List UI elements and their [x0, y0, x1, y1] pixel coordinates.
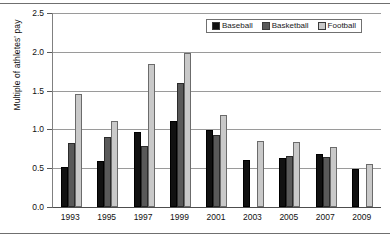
y-axis-tick-label: 0.5: [32, 163, 44, 173]
bar-group: [348, 13, 378, 207]
bar-football-1997: [148, 64, 155, 207]
bar-group: [311, 13, 341, 207]
x-axis-tick-label: 1993: [55, 212, 85, 222]
legend-swatch-basketball: [262, 22, 270, 30]
legend-item-basketball: Basketball: [262, 22, 309, 30]
bar-football-2007: [330, 147, 337, 207]
y-axis-title: Multiple of athletes' pay: [12, 0, 22, 150]
gridline: [53, 207, 381, 208]
bar-group: [56, 13, 86, 207]
x-axis-tick-label: 1997: [128, 212, 158, 222]
bar-football-2001: [220, 115, 227, 207]
bar-group: [93, 13, 123, 207]
bar-football-2003: [257, 141, 264, 207]
y-axis-tick-label: 2.5: [32, 8, 44, 18]
y-axis-tick: [47, 91, 52, 92]
x-axis-tick-label: 2001: [201, 212, 231, 222]
bar-baseball-2003: [243, 160, 250, 207]
bar-football-1995: [111, 121, 118, 207]
bar-football-2009: [366, 164, 373, 207]
bar-baseball-2001: [206, 130, 213, 207]
legend-label: Football: [328, 22, 356, 30]
x-axis-tick-label: 1999: [165, 212, 195, 222]
bar-basketball-1995: [104, 137, 111, 207]
bar-basketball-1999: [177, 83, 184, 207]
bar-basketball-1997: [141, 146, 148, 207]
legend-swatch-baseball: [212, 22, 220, 30]
chart-figure: Multiple of athletes' pay 0.00.51.01.52.…: [0, 0, 390, 242]
y-axis-tick-label: 1.5: [32, 86, 44, 96]
y-axis-tick: [47, 129, 52, 130]
bar-group: [275, 13, 305, 207]
x-axis-tick-label: 2005: [274, 212, 304, 222]
bar-baseball-2009: [352, 169, 359, 207]
bar-basketball-2007: [323, 157, 330, 207]
y-axis-tick-label: 0.0: [32, 202, 44, 212]
x-axis-tick-label: 2003: [237, 212, 267, 222]
legend-item-baseball: Baseball: [212, 22, 253, 30]
bar-baseball-2007: [316, 154, 323, 207]
legend-swatch-football: [318, 22, 326, 30]
plot-area: 0.00.51.01.52.02.5: [52, 13, 380, 208]
y-axis-tick: [47, 52, 52, 53]
bar-basketball-2001: [213, 135, 220, 207]
y-axis-tick: [47, 13, 52, 14]
bar-baseball-1997: [134, 132, 141, 207]
bar-group: [202, 13, 232, 207]
bar-baseball-1999: [170, 121, 177, 207]
y-axis-tick-label: 2.0: [32, 47, 44, 57]
legend-item-football: Football: [318, 22, 356, 30]
bar-football-1993: [75, 94, 82, 207]
y-axis-tick-label: 1.0: [32, 124, 44, 134]
figure-top-rule: [0, 3, 390, 4]
x-axis-tick-label: 2007: [310, 212, 340, 222]
bar-group: [166, 13, 196, 207]
figure-bottom-rule: [0, 233, 390, 234]
bar-group: [238, 13, 268, 207]
bar-baseball-2005: [279, 158, 286, 207]
y-axis-tick: [47, 168, 52, 169]
bar-group: [129, 13, 159, 207]
bar-basketball-2005: [286, 156, 293, 207]
legend-label: Basketball: [272, 22, 309, 30]
x-axis-tick-label: 1995: [92, 212, 122, 222]
bar-football-1999: [184, 53, 191, 207]
chart-legend: BaseballBasketballFootball: [206, 19, 362, 33]
x-axis-tick-labels: 199319951997199920012003200520072009: [52, 212, 380, 222]
bar-groups: [53, 13, 381, 207]
y-axis-tick: [47, 207, 52, 208]
bar-baseball-1995: [97, 161, 104, 207]
bar-football-2005: [293, 142, 300, 207]
legend-label: Baseball: [222, 22, 253, 30]
bar-baseball-1993: [61, 167, 68, 207]
bar-basketball-1993: [68, 143, 75, 207]
x-axis-tick-label: 2009: [347, 212, 377, 222]
